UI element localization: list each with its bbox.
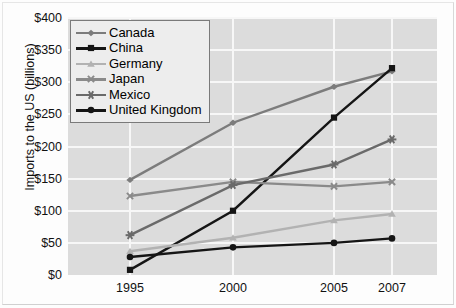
y-axis-tick-label: $100 [2, 204, 62, 218]
y-axis-tick-label: $150 [2, 172, 62, 186]
y-axis-tick-label: $50 [2, 236, 62, 250]
legend-item-japan: Japan [76, 72, 202, 88]
data-point-circle [389, 235, 396, 242]
y-axis-tick-label: $400 [2, 11, 62, 25]
legend-item-united-kingdom: United Kingdom [76, 103, 202, 119]
y-axis-tick-label: $0 [2, 268, 62, 282]
legend-label: Germany [109, 57, 162, 71]
y-axis-tick-label: $200 [2, 140, 62, 154]
legend-label: Canada [109, 26, 155, 40]
data-point-triangle [87, 60, 95, 66]
x-axis-tick-label: 2007 [378, 281, 406, 295]
data-point-diamond [330, 84, 337, 90]
legend-marker-asterisk-icon [76, 88, 106, 102]
data-point-square [331, 114, 337, 120]
y-axis-tick-label: $350 [2, 43, 62, 57]
legend-item-china: China [76, 41, 202, 57]
data-point-asterisk [87, 91, 96, 99]
data-point-circle [331, 240, 338, 247]
x-axis-tick-label: 2000 [219, 281, 247, 295]
y-axis-tick-label: $300 [2, 75, 62, 89]
legend-marker-x-icon [76, 72, 106, 86]
data-point-diamond [87, 30, 94, 36]
data-point-square [230, 208, 236, 214]
data-point-circle [88, 107, 95, 114]
data-point-square [127, 267, 133, 273]
data-point-square [88, 45, 94, 51]
x-axis-tick-label: 1995 [116, 281, 144, 295]
chart-legend: CanadaChinaGermanyJapanMexicoUnited King… [70, 20, 210, 123]
series-mexico [126, 136, 397, 239]
legend-label: China [109, 41, 143, 55]
data-point-x [88, 76, 94, 82]
x-axis-tick-label: 2005 [320, 281, 348, 295]
legend-label: Mexico [109, 88, 150, 102]
legend-marker-circle-icon [76, 103, 106, 117]
legend-item-mexico: Mexico [76, 87, 202, 103]
legend-label: Japan [109, 72, 144, 86]
legend-item-germany: Germany [76, 56, 202, 72]
legend-item-canada: Canada [76, 25, 202, 41]
data-point-square [389, 65, 395, 71]
data-point-asterisk [388, 136, 397, 144]
legend-label: United Kingdom [109, 103, 202, 117]
chart-figure: Imports to the US (billions) $0$50$100$1… [0, 0, 456, 308]
series-japan [127, 179, 395, 199]
legend-marker-diamond-icon [76, 26, 106, 40]
legend-marker-triangle-icon [76, 57, 106, 71]
data-point-circle [127, 254, 134, 261]
data-point-circle [230, 244, 237, 251]
data-point-asterisk [330, 161, 339, 169]
y-axis-tick-label: $250 [2, 107, 62, 121]
legend-marker-square-icon [76, 41, 106, 55]
